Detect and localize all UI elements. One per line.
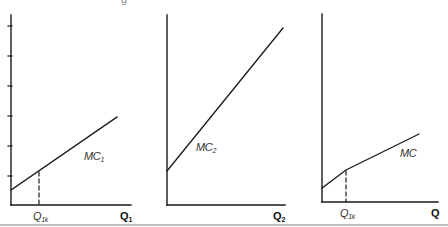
diagram-canvas [0, 0, 448, 227]
panel-3-q1k-label-sub: 1k [348, 213, 355, 220]
panel-1 [8, 15, 131, 205]
mc1-label: MC1 [84, 151, 104, 163]
panel-3-x-axis-label-main: Q [431, 207, 440, 219]
mc1-label-main: MC [84, 150, 101, 162]
panel-2-x-axis-label-main: Q [273, 210, 282, 222]
panel-1-x-axis-label-sub: 1 [129, 216, 133, 223]
panel-1-q1k-label: Q1k [33, 211, 48, 223]
panel-2-x-axis-label: Q2 [273, 211, 285, 223]
mc2-curve [167, 28, 283, 171]
cropped-top-text: g [121, 0, 127, 5]
mc-label: MC [400, 148, 417, 160]
panel-1-x-axis-label: Q1 [120, 211, 132, 223]
panel-3-x-axis-label: Q [431, 208, 440, 220]
mc2-label-sub: 2 [213, 147, 217, 154]
panel-1-x-axis-label-main: Q [120, 210, 129, 222]
panel-3 [322, 14, 438, 202]
bottom-divider [0, 224, 448, 226]
mc2-label-main: MC [196, 141, 213, 153]
panel-1-q1k-label-sub: 1k [41, 216, 48, 223]
mc1-label-sub: 1 [101, 156, 105, 163]
mc-label-main: MC [400, 147, 417, 159]
panel-2-x-axis-label-sub: 2 [282, 216, 286, 223]
panel-3-q1k-label: Q1k [340, 208, 355, 220]
panel-2 [167, 15, 285, 205]
mc2-label: MC2 [196, 142, 216, 154]
mc-curve [322, 134, 419, 188]
